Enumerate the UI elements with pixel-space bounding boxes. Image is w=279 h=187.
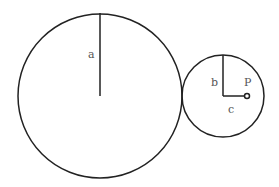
diagram-canvas: a b P c (0, 0, 279, 187)
label-c: c (228, 103, 234, 116)
label-b: b (211, 76, 218, 89)
label-p: P (244, 76, 252, 89)
point-p-marker (245, 94, 250, 99)
label-a: a (88, 48, 95, 61)
